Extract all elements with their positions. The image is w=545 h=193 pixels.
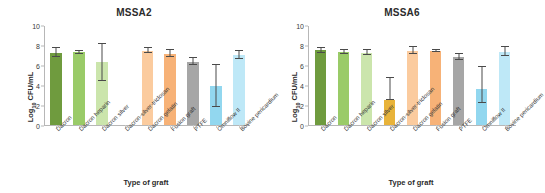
error-bar-cap [52,47,60,48]
y-tick-mark [305,126,308,127]
error-bar-cap [189,57,197,58]
error-bar-cap [340,49,348,50]
error-bar-cap [432,49,440,50]
error-bar-cap [363,49,371,50]
y-tick-mark [41,26,44,27]
error-bar-cap [212,64,220,65]
bar-slot[interactable] [204,26,227,125]
y-tick-label: 8 [22,43,40,50]
y-tick-label: 10 [286,23,304,30]
error-bar-cap [317,52,325,53]
bar[interactable] [73,52,85,125]
y-tick-label: 10 [22,23,40,30]
y-tick-mark [305,46,308,47]
y-tick-mark [305,106,308,107]
error-bar-cap [75,53,83,54]
y-tick-label: 0 [22,123,40,130]
error-bar-cap [235,50,243,51]
y-tick-mark [305,66,308,67]
y-axis-label-mssa2: Log10 CFU/mL [26,71,37,122]
error-bar-cap [386,77,394,78]
bar-slot[interactable] [45,26,68,125]
y-axis-label-mssa6: Log10 CFU/mL [290,71,301,122]
bar-slot[interactable] [470,26,493,125]
error-bar-cap [189,64,197,65]
error-bar [215,65,216,108]
error-bar-cap [478,102,486,103]
error-bar-cap [144,52,152,53]
x-axis-title-mssa6: Type of graft [268,178,536,187]
y-tick-label: 8 [286,43,304,50]
bar-slot[interactable] [309,26,332,125]
y-tick-label: 6 [22,63,40,70]
panel-title-mssa2: MSSA2 [0,7,268,18]
error-bar-cap [144,47,152,48]
bar-slot[interactable] [332,26,355,125]
panel-mssa6: MSSA6 Log10 CFU/mL 0246810 DacronDacron … [268,0,536,193]
error-bar-cap [340,53,348,54]
error-bar-cap [409,53,417,54]
error-bar-cap [235,58,243,59]
y-tick-label: 4 [22,83,40,90]
y-tick-mark [41,46,44,47]
error-bar-cap [386,99,394,100]
bar[interactable] [338,52,350,125]
error-bar-cap [409,46,417,47]
error-bar-cap [166,56,174,57]
error-bar-cap [501,46,509,47]
y-tick-label: 6 [286,63,304,70]
error-bar-cap [98,80,106,81]
y-tick-mark [305,86,308,87]
error-bar-cap [212,106,220,107]
y-tick-label: 2 [22,103,40,110]
error-bar-cap [501,55,509,56]
error-bar-cap [432,51,440,52]
y-tick-label: 4 [286,83,304,90]
error-bar [101,44,102,81]
error-bar-cap [363,54,371,55]
error-bar-cap [455,53,463,54]
error-bar-cap [455,59,463,60]
y-tick-label: 2 [286,103,304,110]
error-bar-cap [52,56,60,57]
error-bar-cap [478,66,486,67]
y-tick-mark [41,106,44,107]
x-tick-labels-mssa2: DacronDacron heparinDacron silverDacron-… [44,128,250,173]
y-tick-mark [41,126,44,127]
x-tick-labels-mssa6: DacronDacron heparinDacron silverDacron-… [308,128,516,173]
panel-title-mssa6: MSSA6 [268,7,536,18]
error-bar [481,67,482,104]
bar[interactable] [50,53,62,125]
bar-slot[interactable] [68,26,91,125]
error-bar-cap [166,49,174,50]
error-bar-cap [317,47,325,48]
error-bar-cap [98,43,106,44]
error-bar-cap [75,50,83,51]
x-axis-title-mssa2: Type of graft [0,178,268,187]
error-bar [389,78,390,100]
y-tick-mark [41,66,44,67]
y-tick-mark [305,26,308,27]
y-tick-label: 0 [286,123,304,130]
panel-mssa2: MSSA2 Log10 CFU/mL 0246810 DacronDacron … [0,0,268,193]
bar[interactable] [315,50,327,125]
y-tick-mark [41,86,44,87]
